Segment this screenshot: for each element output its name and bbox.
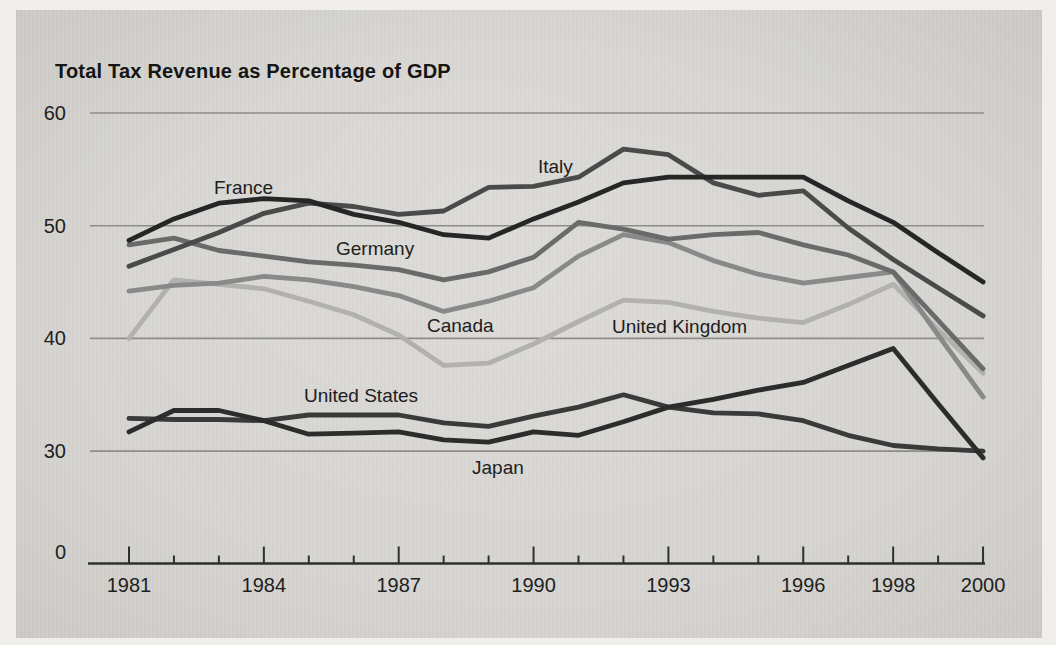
x-tick-label-1987: 1987 [376,574,421,596]
scanned-book-page: { "figure": { "background_color": "#d8d6… [0,0,1056,645]
x-tick-label-1984: 1984 [242,574,287,596]
x-tick-label-1990: 1990 [511,574,556,596]
x-tick-label-1993: 1993 [646,574,691,596]
x-tick-label-1998: 1998 [871,574,916,596]
y-tick-label-40: 40 [44,327,66,349]
chart-canvas: 1981198419871990199319961998200060504030… [0,0,1056,645]
y-tick-label-30: 30 [44,440,66,462]
series-label-italy: Italy [538,156,573,178]
series-label-germany: Germany [336,238,414,260]
series-label-france: France [214,177,273,199]
series-label-united-states: United States [304,385,418,407]
y-tick-label-60: 60 [44,102,66,124]
line-united-states [129,395,983,451]
series-label-canada: Canada [427,315,494,337]
x-tick-label-2000: 2000 [961,574,1006,596]
line-germany [129,222,983,368]
line-united-kingdom [129,280,983,374]
chart: Total Tax Revenue as Percentage of GDP 1… [0,0,1056,645]
y-tick-label-0: 0 [55,541,66,563]
series-label-japan: Japan [472,457,524,479]
series-label-united-kingdom: United Kingdom [612,316,747,338]
line-japan [129,349,983,458]
x-tick-label-1996: 1996 [781,574,826,596]
y-tick-label-50: 50 [44,215,66,237]
x-tick-label-1981: 1981 [107,574,152,596]
